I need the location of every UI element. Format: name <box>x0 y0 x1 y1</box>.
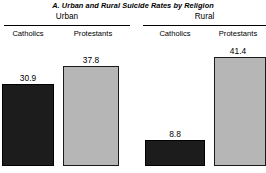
chart-figure: A. Urban and Rural Suicide Rates by Reli… <box>0 0 266 173</box>
bar-rural-catholics <box>145 140 205 166</box>
panel-header-rural: Rural <box>143 12 266 22</box>
panel-rule-rural <box>143 25 266 26</box>
bar-value-rural-protestants: 41.4 <box>210 46 266 56</box>
column-header-rural-catholics: Catholics <box>145 29 205 39</box>
column-header-urban-protestants: Protestants <box>62 29 124 39</box>
panel-header-urban: Urban <box>4 12 130 22</box>
bar-urban-protestants <box>63 66 119 166</box>
bar-urban-catholics <box>2 84 54 166</box>
bar-value-urban-catholics: 30.9 <box>2 73 54 83</box>
panel-rule-urban <box>4 25 130 26</box>
bar-rural-protestants <box>214 57 266 166</box>
plot-area: 30.9 37.8 8.8 41.4 <box>0 40 266 173</box>
bar-value-rural-catholics: 8.8 <box>145 129 205 139</box>
column-header-urban-catholics: Catholics <box>2 29 54 39</box>
column-header-rural-protestants: Protestants <box>210 29 266 39</box>
chart-title: A. Urban and Rural Suicide Rates by Reli… <box>0 1 266 10</box>
bar-value-urban-protestants: 37.8 <box>63 55 119 65</box>
